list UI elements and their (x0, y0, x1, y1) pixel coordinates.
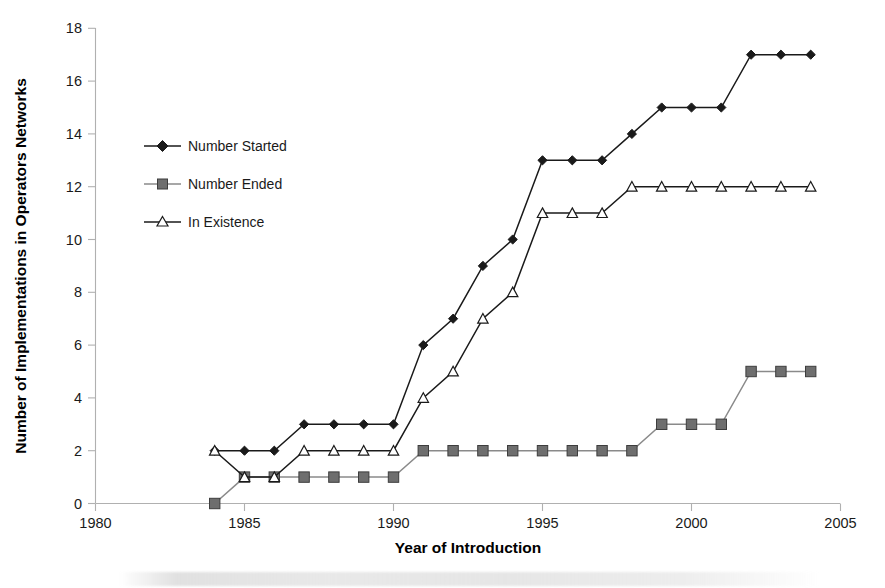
y-tick-label: 16 (66, 73, 82, 89)
y-tick-label: 12 (66, 179, 82, 195)
x-tick-label: 2005 (824, 515, 856, 531)
data-point-marker (478, 446, 488, 456)
y-tick-label: 6 (74, 337, 82, 353)
data-point-marker (210, 498, 220, 508)
data-point-marker (537, 446, 547, 456)
data-point-marker (746, 366, 756, 376)
data-point-marker (388, 472, 398, 482)
y-tick-label: 8 (74, 284, 82, 300)
y-tick-label: 10 (66, 232, 82, 248)
y-tick-label: 2 (74, 443, 82, 459)
legend-label: Number Started (188, 138, 287, 154)
legend-label: Number Ended (188, 176, 282, 192)
data-point-marker (567, 446, 577, 456)
x-tick-label: 2000 (675, 515, 707, 531)
line-chart-svg: 0 2 4 6 8 10 12 14 16 18 1980 1985 1990 … (0, 0, 885, 588)
chart-figure: 0 2 4 6 8 10 12 14 16 18 1980 1985 1990 … (0, 0, 885, 588)
y-axis-title: Number of Implementations in Operators N… (12, 78, 29, 454)
x-tick-label: 1990 (377, 515, 409, 531)
data-point-marker (806, 366, 816, 376)
data-point-marker (448, 446, 458, 456)
data-point-marker (597, 446, 607, 456)
legend-label: In Existence (188, 214, 264, 230)
y-tick-label: 4 (74, 390, 82, 406)
y-tick-label: 0 (74, 496, 82, 512)
data-point-marker (299, 472, 309, 482)
data-point-marker (657, 419, 667, 429)
y-tick-label: 18 (66, 20, 82, 36)
data-point-marker (418, 446, 428, 456)
data-point-marker (686, 419, 696, 429)
x-tick-label: 1980 (79, 515, 111, 531)
x-axis-title: Year of Introduction (395, 539, 541, 556)
data-point-marker (508, 446, 518, 456)
data-point-marker (716, 419, 726, 429)
data-point-marker (329, 472, 339, 482)
x-tick-label: 1995 (526, 515, 558, 531)
square-icon (158, 179, 168, 189)
x-tick-label: 1985 (228, 515, 260, 531)
data-point-marker (627, 446, 637, 456)
data-point-marker (776, 366, 786, 376)
y-tick-label: 14 (66, 126, 82, 142)
chart-background (0, 0, 885, 588)
data-point-marker (359, 472, 369, 482)
